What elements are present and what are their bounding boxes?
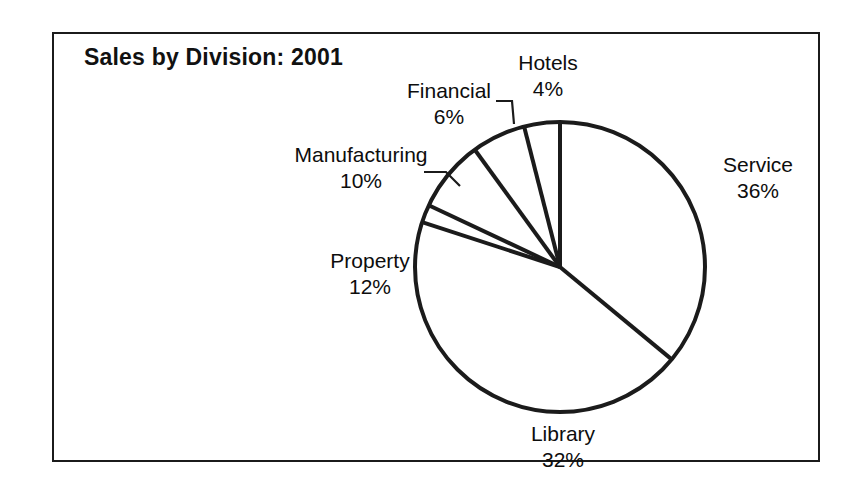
pie-slice-percent-service: 36% — [688, 178, 828, 204]
pie-slice-name-manufacturing: Manufacturing — [268, 142, 454, 168]
pie-slice-percent-property: 12% — [300, 274, 440, 300]
pie-slice-name-property: Property — [300, 248, 440, 274]
pie-slice-percent-manufacturing: 10% — [268, 168, 454, 194]
pie-slice-percent-library: 32% — [488, 447, 638, 473]
pie-slice-percent-financial: 6% — [374, 104, 524, 130]
pie-slice-label-financial: Financial 6% — [374, 78, 524, 130]
figure-root: Sales by Division: 2001 Hotels 4% Financ… — [0, 0, 867, 495]
pie-slice-label-service: Service 36% — [688, 152, 828, 204]
pie-slice-name-financial: Financial — [374, 78, 524, 104]
pie-slice-name-library: Library — [488, 421, 638, 447]
pie-slice-name-service: Service — [688, 152, 828, 178]
pie-slice-label-property: Property 12% — [300, 248, 440, 300]
pie-slice-label-manufacturing: Manufacturing 10% — [268, 142, 454, 194]
pie-slice-label-library: Library 32% — [488, 421, 638, 473]
pie-slice-name-hotels: Hotels — [478, 50, 618, 76]
